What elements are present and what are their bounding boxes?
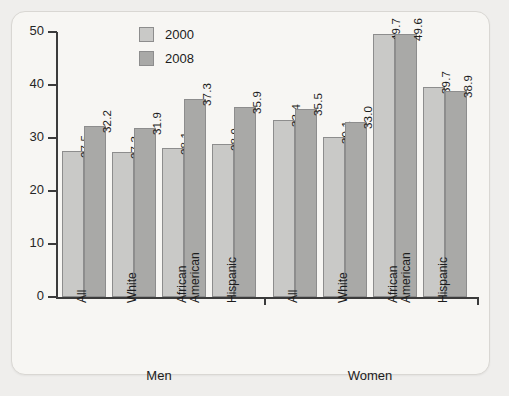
category-label: White — [336, 272, 350, 303]
y-tick-0 — [48, 296, 57, 298]
legend-item-2008[interactable]: 2008 — [139, 48, 194, 68]
category-label: All — [75, 290, 89, 303]
bar-chart-plot: 01020304050 27.532.227.331.928.137.328.9… — [0, 0, 509, 396]
bar[interactable] — [295, 109, 317, 297]
y-tick-label-0: 0 — [0, 288, 44, 303]
bar[interactable] — [373, 34, 395, 297]
bar-value-label: 49.6 — [412, 18, 424, 41]
bar[interactable] — [62, 151, 84, 297]
y-tick-50 — [48, 31, 57, 33]
bar[interactable] — [345, 122, 367, 297]
legend-swatch-icon — [139, 27, 154, 42]
bar-value-label: 32.2 — [101, 110, 113, 133]
group-label-women: Women — [348, 368, 393, 383]
bar[interactable] — [273, 120, 295, 297]
chart-page: 01020304050 27.532.227.331.928.137.328.9… — [0, 0, 509, 396]
y-tick-40 — [48, 84, 57, 86]
x-axis-end-tick — [477, 297, 479, 305]
bar-value-label: 31.9 — [151, 112, 163, 135]
y-tick-10 — [48, 243, 57, 245]
bar-value-label: 35.9 — [251, 91, 263, 114]
category-label: All — [286, 290, 300, 303]
y-tick-label-20: 20 — [0, 182, 44, 197]
category-label: Hispanic — [225, 257, 239, 303]
y-axis-line — [56, 32, 58, 298]
category-label: Hispanic — [436, 257, 450, 303]
y-tick-label-10: 10 — [0, 235, 44, 250]
y-tick-label-30: 30 — [0, 129, 44, 144]
bar[interactable] — [84, 126, 106, 297]
y-tick-30 — [48, 137, 57, 139]
legend-swatch-icon — [139, 51, 154, 66]
y-tick-label-50: 50 — [0, 23, 44, 38]
bar-value-label: 37.3 — [201, 83, 213, 106]
y-tick-label-40: 40 — [0, 76, 44, 91]
x-axis-group-divider-tick — [264, 297, 266, 305]
category-label: American — [399, 252, 413, 303]
y-tick-20 — [48, 190, 57, 192]
bar-value-label: 38.9 — [462, 75, 474, 98]
category-label: African — [386, 266, 400, 303]
category-label: African — [175, 266, 189, 303]
legend-label: 2000 — [165, 27, 194, 42]
category-label: American — [188, 252, 202, 303]
x-axis-line — [56, 297, 478, 299]
category-label: White — [125, 272, 139, 303]
legend-label: 2008 — [165, 51, 194, 66]
legend-item-2000[interactable]: 2000 — [139, 24, 194, 44]
bar-value-label: 35.5 — [312, 93, 324, 116]
chart-legend: 20002008 — [139, 24, 194, 72]
group-label-men: Men — [146, 368, 171, 383]
